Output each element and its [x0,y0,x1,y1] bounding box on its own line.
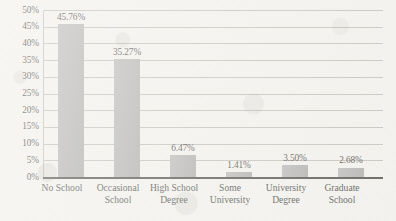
y-axis-tick-label: 0% [3,173,39,182]
y-axis-tick-label: 35% [3,56,39,65]
x-axis-label-graduate-school: Graduate School [311,182,373,205]
gridline-35 [43,60,383,61]
y-axis-tick-label: 30% [3,72,39,81]
gridline-40 [43,43,383,44]
bar-occasional-school [114,59,140,177]
bar-value-label: 2.68% [325,156,377,165]
bar-some-university [226,172,252,177]
gridline-30 [43,77,383,78]
gridline-10 [43,144,383,145]
y-axis-tick-label: 40% [3,39,39,48]
bar-university-degree [282,165,308,177]
x-axis-label-high-school-degree: High School Degree [143,182,205,205]
y-axis-tick-label: 50% [3,6,39,15]
y-axis-tick-label: 45% [3,22,39,31]
x-axis-label-some-university: Some University [199,182,261,205]
bar-value-label: 3.50% [269,154,321,163]
x-axis-label-no-school: No School [32,182,92,194]
gridline-50 [43,10,383,11]
bar-value-label: 45.76% [45,13,97,22]
y-axis-tick-label: 20% [3,106,39,115]
x-axis-label-university-degree: University Degree [255,182,317,205]
gridline-45 [43,27,383,28]
gridline-20 [43,110,383,111]
x-axis-baseline [43,177,383,179]
x-axis-label-occasional-school: Occasional School [88,182,148,205]
bar-value-label: 1.41% [213,161,265,170]
bar-no-school [58,24,84,177]
bar-value-label: 35.27% [101,48,153,57]
gridline-15 [43,127,383,128]
bar-graduate-school [338,168,364,177]
y-axis-tick-label: 10% [3,139,39,148]
y-axis-tick-label: 25% [3,89,39,98]
gridline-25 [43,94,383,95]
y-axis-tick-label: 5% [3,156,39,165]
plot-area: 45.76% 35.27% 6.47% 1.41% 3.50% 2.68% [43,10,383,177]
y-axis-tick-label: 15% [3,122,39,131]
bar-chart: 50% 45% 40% 35% 30% 25% 20% 15% 10% 5% 0… [0,0,396,221]
bar-value-label: 6.47% [157,144,209,153]
bar-high-school-degree [170,155,196,177]
